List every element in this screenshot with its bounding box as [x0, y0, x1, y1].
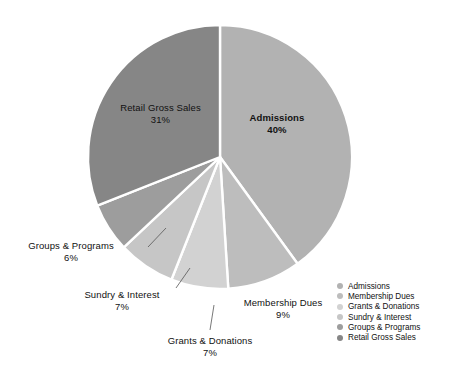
legend-item[interactable]: Membership Dues	[337, 291, 450, 301]
legend-item-label: Grants & Donations	[348, 302, 419, 311]
slice-label-grants-donations-name: Grants & Donations	[139, 335, 281, 347]
slice-label-sundry-interest-name: Sundry & Interest	[62, 289, 182, 301]
legend-item-label: Sundry & Interest	[348, 313, 411, 322]
slice-label-retail-gross-sales-value: 31%	[103, 114, 218, 126]
legend-swatch-icon	[337, 324, 343, 330]
slice-label-admissions-name: Admissions	[222, 112, 332, 124]
slice-label-groups-programs: Groups & Programs 6%	[6, 240, 136, 263]
legend-item-label: Retail Gross Sales	[348, 333, 416, 342]
slice-label-membership-dues-name: Membership Dues	[224, 297, 342, 309]
slice-label-sundry-interest: Sundry & Interest 7%	[62, 289, 182, 312]
slice-label-groups-programs-value: 6%	[6, 252, 136, 264]
slice-label-membership-dues: Membership Dues 9%	[224, 297, 342, 320]
legend-item[interactable]: Admissions	[337, 281, 450, 291]
legend-swatch-icon	[337, 293, 343, 299]
slice-label-sundry-interest-value: 7%	[62, 301, 182, 313]
slice-label-grants-donations-value: 7%	[139, 347, 281, 359]
slice-label-grants-donations: Grants & Donations 7%	[139, 335, 281, 358]
slice-label-retail-gross-sales-name: Retail Gross Sales	[103, 102, 218, 114]
slice-label-admissions: Admissions 40%	[222, 112, 332, 135]
slice-label-admissions-value: 40%	[222, 124, 332, 136]
legend-item-label: Membership Dues	[348, 292, 414, 301]
legend-item-label: Admissions	[348, 282, 390, 291]
slice-label-retail-gross-sales: Retail Gross Sales 31%	[103, 102, 218, 125]
slice-label-groups-programs-name: Groups & Programs	[6, 240, 136, 252]
chart-legend: AdmissionsMembership DuesGrants & Donati…	[337, 281, 450, 343]
legend-swatch-icon	[337, 314, 343, 320]
slice-label-membership-dues-value: 9%	[224, 309, 342, 321]
legend-item[interactable]: Retail Gross Sales	[337, 332, 450, 342]
legend-item[interactable]: Groups & Programs	[337, 322, 450, 332]
leader-line-grants-donations	[210, 305, 214, 330]
legend-swatch-icon	[337, 283, 343, 289]
legend-item[interactable]: Grants & Donations	[337, 302, 450, 312]
legend-swatch-icon	[337, 335, 343, 341]
legend-swatch-icon	[337, 304, 343, 310]
legend-item-label: Groups & Programs	[348, 323, 420, 332]
legend-item[interactable]: Sundry & Interest	[337, 312, 450, 322]
pie-chart: Admissions 40% Retail Gross Sales 31% Gr…	[0, 0, 450, 379]
